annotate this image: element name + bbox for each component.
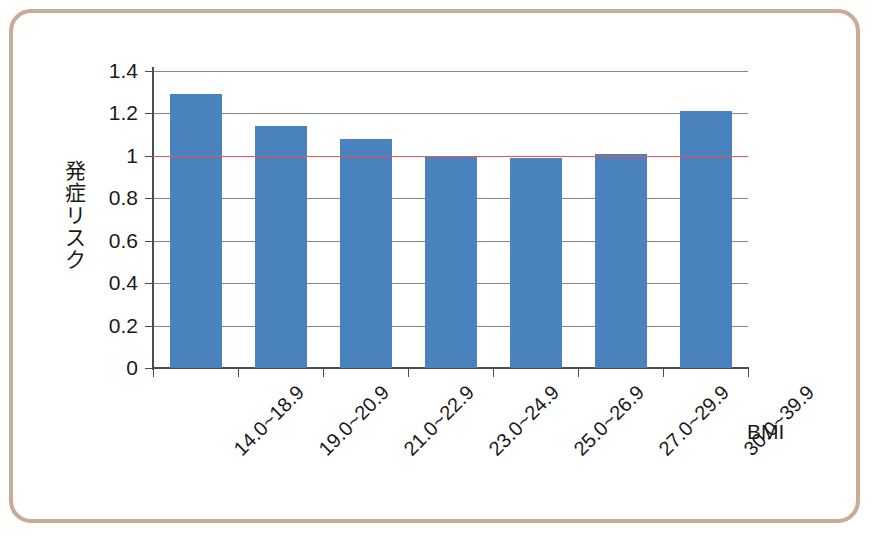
x-tick-label-2: 21.0~22.9 xyxy=(399,381,479,461)
x-tick-label-4: 25.0~26.9 xyxy=(569,381,649,461)
bar-30.0~39.9[interactable] xyxy=(680,111,732,368)
plot-area xyxy=(153,71,748,368)
bar-27.0~29.9[interactable] xyxy=(595,154,647,368)
x-tick-label-5: 27.0~29.9 xyxy=(654,381,734,461)
x-tick-label-0: 14.0~18.9 xyxy=(229,381,309,461)
bar-25.0~26.9[interactable] xyxy=(510,158,562,368)
bar-21.0~22.9[interactable] xyxy=(340,139,392,368)
bar-19.0~20.9[interactable] xyxy=(255,126,307,368)
x-tick-label-1: 19.0~20.9 xyxy=(314,381,394,461)
bar-14.0~18.9[interactable] xyxy=(170,94,222,368)
bar-chart: 1.4 1.2 1 0.8 0.6 0.4 0.2 0 発 症 リ ス ク 14… xyxy=(0,0,877,542)
bar-23.0~24.9[interactable] xyxy=(425,156,477,368)
x-tick-label-3: 23.0~24.9 xyxy=(484,381,564,461)
reference-line-1.0 xyxy=(153,156,748,157)
x-axis-title: BMI xyxy=(747,420,784,444)
bar-series xyxy=(153,71,748,368)
screenshot-root: 1.4 1.2 1 0.8 0.6 0.4 0.2 0 発 症 リ ス ク 14… xyxy=(0,0,877,542)
